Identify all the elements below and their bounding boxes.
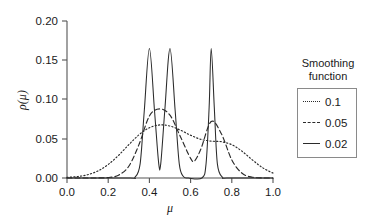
legend-title-line1: Smoothing: [292, 57, 364, 70]
legend-label-2: 0.02: [325, 138, 347, 150]
x-tick-label-4: 0.8: [224, 186, 240, 198]
y-tick-label-3: 0.05: [36, 133, 58, 145]
x-tick-label-1: 0.2: [100, 186, 116, 198]
x-tick-label-5: 1.0: [265, 186, 281, 198]
curve-0-1: [67, 125, 273, 178]
x-tick-label-0: 0.0: [59, 186, 75, 198]
y-tick-label-1: 0.15: [36, 54, 58, 66]
legend-line-solid-icon: [303, 139, 320, 149]
legend-item-1[interactable]: 0.05: [298, 113, 356, 133]
x-axis-title: μ: [166, 201, 173, 215]
x-tick-marks: [67, 178, 273, 183]
x-tick-label-2: 0.4: [141, 186, 158, 198]
y-tick-label-2: 0.10: [36, 93, 58, 105]
data-curves: [67, 48, 273, 179]
x-tick-label-3: 0.6: [183, 186, 199, 198]
y-tick-label-0: 0.20: [36, 15, 58, 27]
curve-0-05: [67, 109, 273, 178]
legend-line-dashed-icon: [303, 118, 320, 128]
legend-label-0: 0.1: [325, 96, 341, 108]
y-tick-marks: [62, 21, 67, 178]
curve-0-02: [67, 48, 273, 179]
y-axis-title: ρ(μ): [15, 90, 29, 111]
legend-label-1: 0.05: [325, 117, 347, 129]
legend-line-dotted-icon: [303, 97, 320, 107]
legend-item-0[interactable]: 0.1: [298, 92, 356, 112]
legend-item-2[interactable]: 0.02: [298, 134, 356, 154]
legend-title-line2: function: [292, 70, 364, 83]
y-tick-label-4: 0.00: [36, 172, 58, 184]
legend-box: 0.1 0.05 0.02: [297, 88, 357, 158]
legend-title: Smoothing function: [292, 57, 364, 82]
chart-figure: 0.20 0.15 0.10 0.05 0.00 0.0 0.2 0.4 0.6…: [0, 0, 367, 220]
